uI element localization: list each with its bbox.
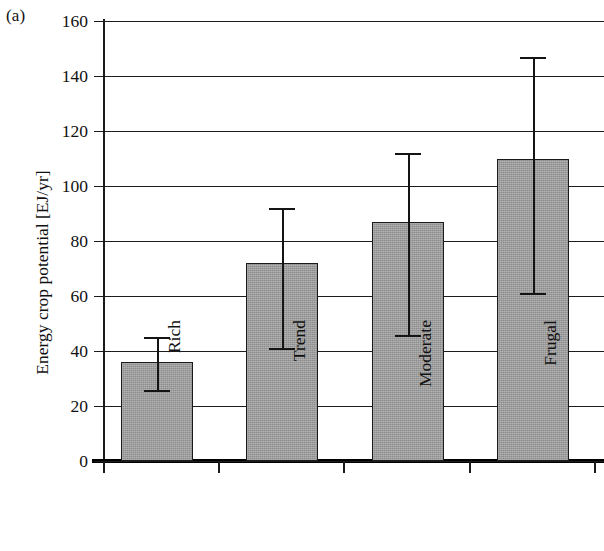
x-tick-mark [343,461,345,473]
x-tick-mark-origin [103,461,105,473]
error-bar-cap-upper-frugal [520,57,546,59]
y-tick-label: 20 [30,397,88,415]
x-category-label-moderate: Moderate [416,320,435,470]
x-category-label-rich: Rich [165,320,184,470]
y-tick-label: 160 [30,12,88,30]
error-bar-line-rich [157,337,159,389]
gridline [103,21,604,22]
y-tick-label: 100 [30,177,88,195]
gridline [103,131,604,132]
error-bar-cap-upper-trend [269,208,295,210]
y-tick-label: 0 [30,452,88,470]
y-tick-label: 80 [30,232,88,250]
x-category-label-trend: Trend [290,320,309,470]
y-tick-label: 60 [30,287,88,305]
y-tick-label: 40 [30,342,88,360]
x-tick-mark [594,461,596,473]
gridline [103,76,604,77]
x-tick-mark [218,461,220,473]
y-tick-label: 120 [30,122,88,140]
x-tick-mark [469,461,471,473]
y-tick-label: 140 [30,67,88,85]
error-bar-line-trend [282,208,284,348]
error-bar-cap-upper-moderate [395,153,421,155]
error-bar-cap-lower-frugal [520,293,546,295]
x-category-label-frugal: Frugal [541,320,560,470]
panel-label: (a) [6,6,25,26]
figure-panel-a: (a) Energy crop potential [EJ/yr] 020406… [0,0,604,551]
error-bar-line-moderate [408,153,410,335]
error-bar-line-frugal [533,57,535,294]
